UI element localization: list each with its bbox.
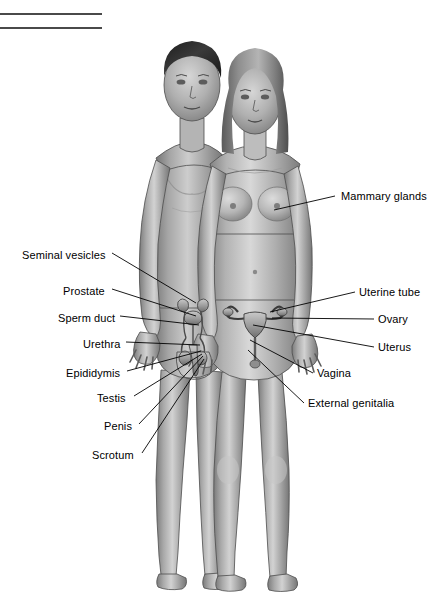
label-urethra: Urethra: [83, 338, 120, 350]
anatomy-illustration: [0, 0, 448, 612]
seminal-vesicle-right: [198, 299, 209, 312]
testis-left: [179, 351, 191, 365]
label-external-genitalia: External genitalia: [308, 397, 394, 409]
ovary-left: [223, 308, 233, 316]
external-genitalia-organ: [250, 360, 260, 368]
label-testis: Testis: [97, 392, 126, 404]
label-penis: Penis: [104, 420, 132, 432]
label-seminal-vesicles: Seminal vesicles: [22, 249, 106, 261]
label-vagina: Vagina: [317, 367, 351, 379]
label-ovary: Ovary: [378, 313, 408, 325]
label-uterus: Uterus: [378, 341, 411, 353]
label-epididymis: Epididymis: [66, 367, 120, 379]
seminal-vesicle-left: [178, 299, 189, 312]
label-uterine-tube: Uterine tube: [359, 286, 420, 298]
label-sperm-duct: Sperm duct: [58, 312, 115, 324]
label-scrotum: Scrotum: [92, 449, 134, 461]
anatomy-figure: Seminal vesicles Prostate Sperm duct Ure…: [0, 0, 448, 612]
label-prostate: Prostate: [63, 285, 105, 297]
label-mammary-glands: Mammary glands: [341, 190, 427, 202]
